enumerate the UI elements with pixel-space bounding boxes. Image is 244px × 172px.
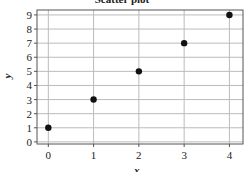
y-tick-label: 7	[27, 37, 33, 49]
y-tick-label: 6	[27, 51, 33, 63]
x-tick-label: 1	[91, 149, 97, 161]
y-tick-label: 9	[27, 9, 33, 21]
y-axis-ticks: 0123456789	[27, 9, 38, 148]
plot-frame	[37, 10, 243, 144]
x-tick-label: 4	[227, 149, 233, 161]
data-point	[226, 12, 232, 18]
y-tick-label: 2	[27, 108, 33, 120]
data-point	[90, 96, 96, 102]
y-tick-label: 1	[27, 122, 33, 134]
grid-lines	[37, 10, 243, 144]
scatter-plot: 0123456789 01234	[0, 0, 244, 172]
x-tick-label: 3	[181, 149, 187, 161]
y-tick-label: 8	[27, 23, 33, 35]
x-axis-ticks: 01234	[46, 144, 233, 161]
data-point	[181, 40, 187, 46]
data-point	[45, 125, 51, 131]
y-tick-label: 4	[27, 79, 33, 91]
x-tick-label: 2	[136, 149, 142, 161]
y-tick-label: 3	[27, 94, 33, 106]
y-tick-label: 0	[27, 136, 33, 148]
data-point	[136, 68, 142, 74]
y-tick-label: 5	[27, 65, 33, 77]
x-tick-label: 0	[46, 149, 52, 161]
